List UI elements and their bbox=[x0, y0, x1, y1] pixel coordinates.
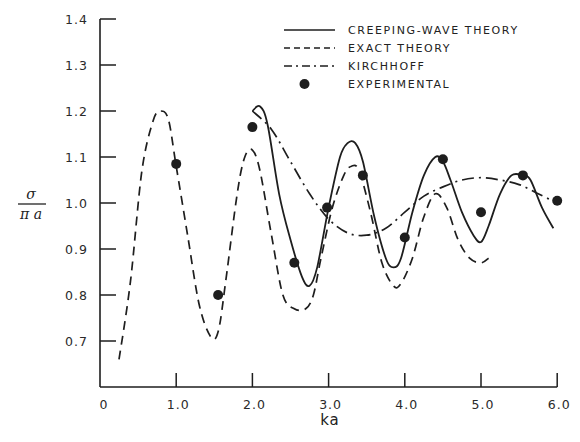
legend-label: KIRCHHOFF bbox=[348, 60, 426, 73]
data-point-experimental bbox=[476, 207, 486, 217]
legend-marker-points bbox=[300, 79, 310, 89]
y-tick-label: 1.2 bbox=[65, 104, 88, 119]
data-point-experimental bbox=[438, 154, 448, 164]
data-point-experimental bbox=[400, 233, 410, 243]
x-tick-label: 5.0 bbox=[472, 397, 495, 412]
legend-label: CREEPING-WAVE THEORY bbox=[348, 24, 519, 37]
x-tick-label: 4.0 bbox=[395, 397, 418, 412]
y-tick-label: 0.9 bbox=[65, 242, 88, 257]
y-tick-label: 0.8 bbox=[65, 288, 88, 303]
series-line-exact-theory bbox=[119, 111, 489, 359]
chart: 0.70.80.91.01.11.21.31.401.02.03.04.05.0… bbox=[0, 0, 580, 442]
data-point-experimental bbox=[213, 290, 223, 300]
y-axis-title-denominator: π a bbox=[19, 206, 42, 222]
series-line-kirchhoff bbox=[252, 111, 557, 236]
data-point-experimental bbox=[322, 203, 332, 213]
data-point-experimental bbox=[358, 170, 368, 180]
plot-series bbox=[119, 106, 562, 360]
y-tick-label: 1.3 bbox=[65, 58, 88, 73]
x-axis-title: ka bbox=[320, 411, 340, 429]
x-tick-label: 1.0 bbox=[167, 397, 190, 412]
y-tick-label: 1.4 bbox=[65, 12, 88, 27]
y-tick-label: 1.0 bbox=[65, 196, 88, 211]
data-point-experimental bbox=[289, 258, 299, 268]
x-tick-label: 6.0 bbox=[548, 397, 571, 412]
y-axis-title-numerator: σ bbox=[26, 186, 36, 202]
y-tick-label: 0.7 bbox=[65, 334, 88, 349]
x-tick-label: 3.0 bbox=[319, 397, 342, 412]
axes: 0.70.80.91.01.11.21.31.401.02.03.04.05.0… bbox=[65, 12, 571, 413]
y-tick-label: 1.1 bbox=[65, 150, 88, 165]
legend-label: EXPERIMENTAL bbox=[348, 78, 450, 91]
x-tick-label: 2.0 bbox=[243, 397, 266, 412]
x-tick-label: 0 bbox=[100, 397, 109, 412]
data-point-experimental bbox=[518, 170, 528, 180]
data-point-experimental bbox=[552, 196, 562, 206]
legend: CREEPING-WAVE THEORYEXACT THEORYKIRCHHOF… bbox=[284, 24, 519, 91]
legend-label: EXACT THEORY bbox=[348, 42, 451, 55]
data-point-experimental bbox=[171, 159, 181, 169]
data-point-experimental bbox=[247, 122, 257, 132]
